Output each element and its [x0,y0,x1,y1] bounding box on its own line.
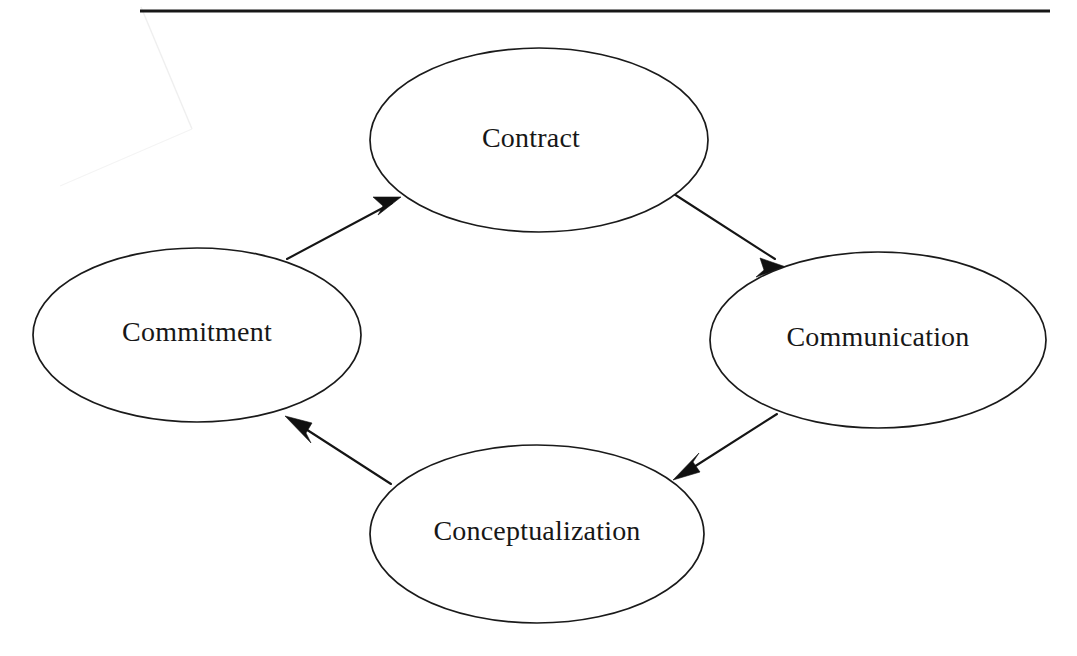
edge-line [287,203,392,259]
node-label-commitment: Commitment [122,316,272,347]
scan-artifact-edge-1 [141,7,192,129]
node-label-communication: Communication [786,321,969,352]
arrow-head-icon [285,416,312,443]
node-communication[interactable]: Communication [710,252,1046,428]
edge-line [674,194,775,259]
edge-contract-to-communication [674,194,786,277]
edge-line [686,414,777,472]
node-commitment[interactable]: Commitment [33,248,361,422]
node-label-conceptualization: Conceptualization [433,515,640,546]
scan-artifact-edge-2 [60,129,192,186]
node-conceptualization[interactable]: Conceptualization [370,445,704,623]
diagram-canvas: Contract Communication Conceptualization… [0,0,1077,656]
edge-conceptualization-to-commitment [285,416,391,484]
edge-communication-to-conceptualization [673,414,777,480]
arrow-head-icon [673,453,700,480]
cycle-diagram: Contract Communication Conceptualization… [0,0,1077,656]
edge-line [298,424,391,484]
edge-commitment-to-contract [287,197,401,259]
node-contract[interactable]: Contract [370,48,708,232]
node-label-contract: Contract [482,122,580,153]
arrow-head-icon [373,197,401,215]
